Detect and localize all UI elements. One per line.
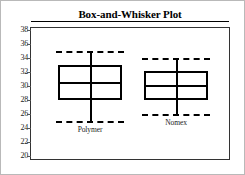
y-axis-tick-label: 26 <box>12 110 28 118</box>
y-axis-tick-label: 22 <box>12 138 28 146</box>
y-axis-tick-label: 28 <box>12 96 28 104</box>
y-axis-tick-label: 36 <box>12 40 28 48</box>
page-title: Box-and-Whisker Plot <box>31 8 229 22</box>
y-axis-tick-label: 24 <box>12 124 28 132</box>
plot-frame <box>30 27 230 160</box>
figure-root: Box-and-Whisker Plot 3836343230282624222… <box>0 0 245 175</box>
y-axis-tick-label: 38 <box>12 26 28 34</box>
y-axis-tick-label: 34 <box>12 54 28 62</box>
y-axis-tick-label: 20 <box>12 152 28 160</box>
y-axis-tick-label: 30 <box>12 82 28 90</box>
y-axis-tick-label: 32 <box>12 68 28 76</box>
